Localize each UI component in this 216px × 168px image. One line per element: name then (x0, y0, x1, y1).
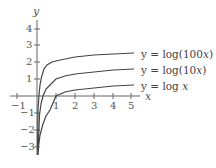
curve-log-100x (38, 53, 135, 150)
curve-log-10x (38, 69, 134, 155)
svg-text:2: 2 (26, 56, 32, 67)
label-log-x: y = log x (140, 80, 188, 92)
svg-text:4: 4 (110, 100, 116, 111)
curves (38, 53, 135, 155)
svg-text:3: 3 (26, 39, 32, 50)
svg-text:−3: −3 (20, 141, 35, 152)
x-axis (10, 93, 140, 99)
svg-text:3: 3 (91, 100, 97, 111)
log-chart: y x −1 1 2 3 4 5 4 3 2 1 −1 −2 −3 y = lo… (0, 0, 216, 168)
svg-text:5: 5 (128, 100, 134, 111)
svg-text:2: 2 (72, 100, 78, 111)
label-log-100x: y = log(100x) (140, 48, 213, 60)
svg-text:−1: −1 (20, 107, 35, 118)
svg-text:4: 4 (26, 23, 32, 34)
svg-text:−2: −2 (20, 124, 35, 135)
label-log-10x: y = log(10x) (140, 64, 206, 76)
y-tick-labels: 4 3 2 1 −1 −2 −3 (20, 23, 35, 152)
y-axis-label: y (32, 5, 40, 18)
svg-text:1: 1 (26, 73, 32, 84)
